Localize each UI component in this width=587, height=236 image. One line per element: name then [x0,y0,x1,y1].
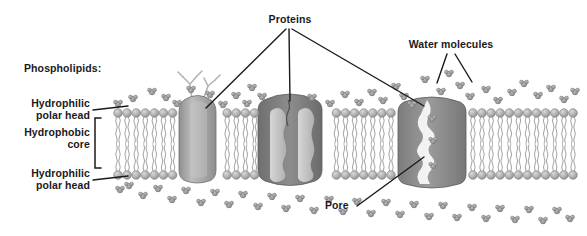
proteins-label: Proteins [244,13,336,26]
hydrophobic-core-label-line2: core [0,138,90,151]
hydrophilic-head-bottom-label-line1: Hydrophilic [0,167,90,180]
hydrophilic-head-top-label-line2: polar head [0,109,90,122]
pore-label: Pore [325,199,349,212]
hydrophobic-core-label-line1: Hydrophobic [0,126,90,139]
leader-water-right [455,54,472,82]
leader-head-bottom [93,176,128,180]
hydrophilic-head-bottom-label-line2: polar head [0,179,90,192]
leader-pore [357,157,424,206]
leader-water-left [437,54,447,83]
leader-head-top [93,106,128,110]
leader-proteins-left [206,29,286,108]
bracket-hydrophobic-core [95,118,101,168]
leader-proteins-center [289,29,290,101]
phospholipids-label: Phospholipids: [24,62,101,75]
hydrophilic-head-top-label-line1: Hydrophilic [0,97,90,110]
diagram-canvas: Phospholipids: Hydrophilic polar head Hy… [0,0,587,236]
water-molecules-label: Water molecules [384,38,518,51]
